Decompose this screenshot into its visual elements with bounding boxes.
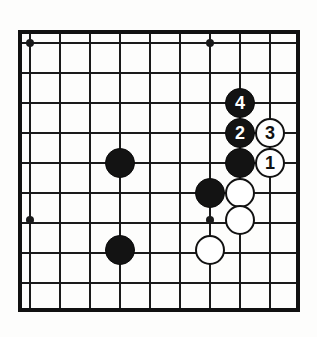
stone-move-number: 2 — [235, 124, 245, 142]
stone-layer: 4231 — [0, 0, 317, 337]
white-stone-lower — [195, 235, 225, 265]
white-stone-move-3: 3 — [255, 118, 285, 148]
black-stone-move-2: 2 — [225, 118, 255, 148]
black-stone-move-4: 4 — [225, 88, 255, 118]
black-stone-right-middle — [225, 148, 255, 178]
black-stone-center — [195, 178, 225, 208]
black-stone-left-upper — [105, 148, 135, 178]
stone-move-number: 4 — [235, 94, 245, 112]
white-stone-middle — [225, 205, 255, 235]
black-stone-left-lower — [105, 235, 135, 265]
stone-move-number: 1 — [265, 154, 275, 172]
stone-move-number: 3 — [265, 124, 275, 142]
white-stone-upper — [225, 178, 255, 208]
white-stone-move-1: 1 — [255, 148, 285, 178]
go-board-diagram: 4231 — [0, 0, 317, 337]
